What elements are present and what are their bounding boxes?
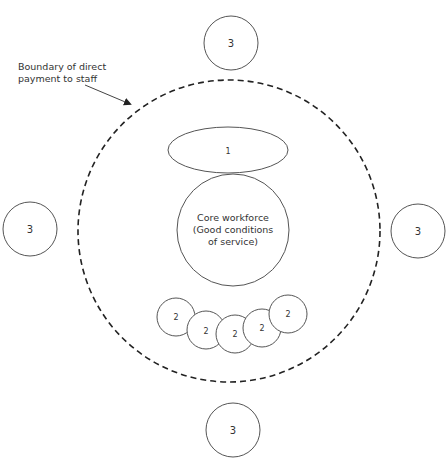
outer-top-label: 3 [228, 38, 234, 49]
outer-right-label: 3 [415, 226, 421, 237]
outer-circle-bottom: 3 [206, 403, 260, 457]
small-circle-5: 2 [269, 295, 307, 333]
small-circle-label: 2 [259, 324, 264, 333]
core-line-2: (Good conditions [193, 224, 274, 235]
core-line-1: Core workforce [197, 212, 269, 223]
ellipse-label: 1 [225, 147, 230, 156]
workforce-diagram: 3 3 3 3 1 Core workforce (Good condition… [0, 0, 446, 463]
core-line-3: of service) [208, 236, 258, 247]
small-circle-label: 2 [173, 313, 178, 322]
core-workforce-circle: Core workforce (Good conditions of servi… [177, 174, 289, 286]
ellipse-1: 1 [168, 127, 288, 173]
small-circle-label: 2 [285, 310, 290, 319]
outer-circle-right: 3 [391, 204, 445, 258]
outer-circle-left: 3 [3, 202, 57, 256]
annotation-arrow [85, 85, 130, 104]
outer-left-label: 3 [27, 224, 33, 235]
outer-circle-top: 3 [204, 16, 258, 70]
outer-bottom-label: 3 [230, 425, 236, 436]
small-circle-label: 2 [232, 330, 237, 339]
small-circle-label: 2 [203, 327, 208, 336]
